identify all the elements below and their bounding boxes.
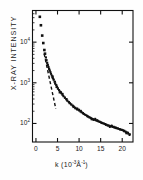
y-tick-exponent: 4 <box>27 37 30 42</box>
y-tick-label: 102 <box>20 118 30 126</box>
x-tick-label: 15 <box>91 145 111 152</box>
y-tick-label: 104 <box>20 37 30 45</box>
data-points <box>39 15 131 136</box>
y-tick-label: 103 <box>20 78 30 86</box>
x-tick-label: 0 <box>26 145 46 152</box>
y-tick-exponent: 2 <box>27 118 30 123</box>
x-tick-label: 5 <box>48 145 68 152</box>
x-tick-label: 10 <box>69 145 89 152</box>
x-axis-title-prefix: k (10 <box>55 161 72 168</box>
y-axis-title: X-RAY INTENSITY <box>8 8 20 98</box>
axis-ticks <box>33 11 134 143</box>
y-tick-exponent: 3 <box>27 78 30 83</box>
figure-container: X-RAY INTENSITY k (10-3Å-1) 104103102 05… <box>0 0 143 180</box>
x-axis-title: k (10-3Å-1) <box>0 160 143 168</box>
y-axis-title-text: X-RAY INTENSITY <box>8 8 20 98</box>
x-tick-label: 20 <box>112 145 132 152</box>
x-axis-title-suffix: ) <box>85 161 88 168</box>
axes-frame <box>33 11 134 143</box>
plot-canvas <box>0 0 143 180</box>
